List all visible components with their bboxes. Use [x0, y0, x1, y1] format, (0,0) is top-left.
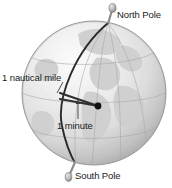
north-pole-pin-icon — [108, 4, 116, 24]
center-dot-icon — [95, 103, 102, 110]
globe-illustration — [0, 0, 172, 188]
label-nautical-mile: 1 nautical mile — [2, 72, 61, 83]
label-north-pole: North Pole — [117, 9, 161, 20]
label-south-pole: South Pole — [75, 170, 120, 181]
label-minute: 1 minute — [57, 120, 93, 131]
globe-diagram-figure: North Pole South Pole 1 nautical mile 1 … — [0, 0, 172, 188]
